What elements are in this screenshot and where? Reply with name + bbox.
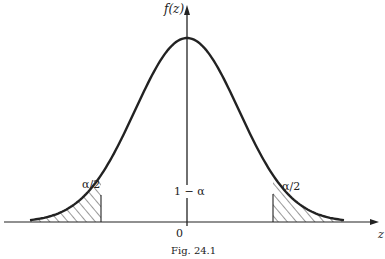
origin-label: 0 <box>176 227 183 240</box>
y-axis-arrow-icon <box>184 5 190 15</box>
x-axis-label: z <box>378 228 384 241</box>
x-axis-arrow-icon <box>370 219 379 225</box>
y-axis-label: f(z) <box>164 2 184 16</box>
figure-caption: Fig. 24.1 <box>171 245 216 256</box>
normal-distribution-diagram <box>0 0 385 259</box>
right-tail-label: α/2 <box>282 180 300 193</box>
center-label: 1 − α <box>173 185 206 198</box>
left-tail-label: α/2 <box>82 178 100 191</box>
